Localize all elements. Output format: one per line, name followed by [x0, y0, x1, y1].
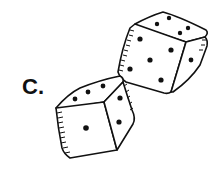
pip — [117, 95, 122, 100]
pip — [127, 66, 132, 71]
pip — [137, 36, 142, 41]
pip — [147, 57, 152, 62]
pip — [168, 47, 173, 52]
pip — [155, 22, 159, 26]
pip — [73, 97, 78, 102]
pip — [178, 31, 182, 35]
pip — [116, 119, 121, 124]
pip — [186, 26, 190, 30]
pip — [86, 90, 91, 95]
dice-illustration — [0, 0, 217, 169]
pip — [167, 16, 171, 20]
pip — [101, 84, 106, 89]
lower-die — [56, 76, 134, 158]
upper-die — [118, 12, 207, 93]
pip — [83, 125, 89, 131]
pip — [189, 58, 194, 63]
pip — [158, 77, 163, 82]
